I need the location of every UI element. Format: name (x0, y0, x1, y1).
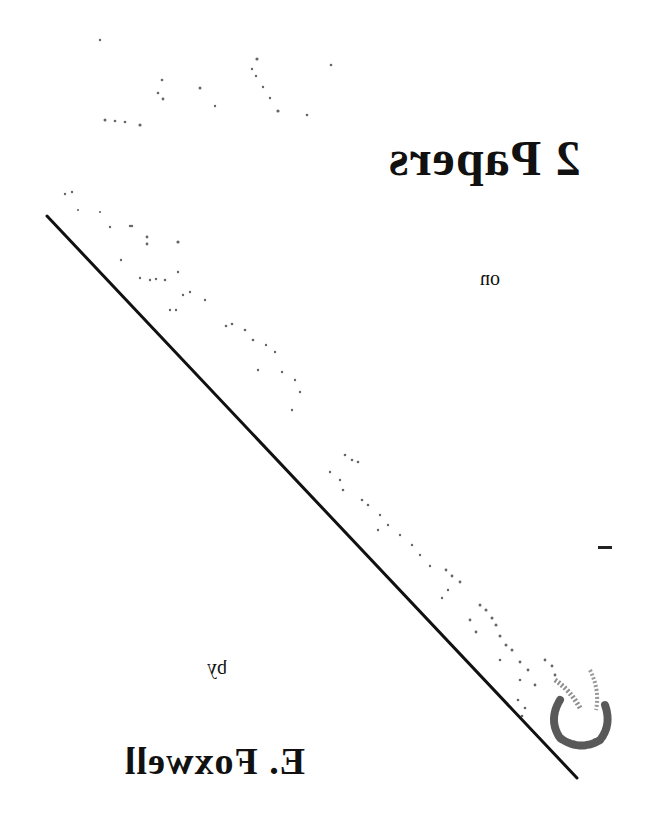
title-text: 2 Papers (388, 128, 581, 188)
connector-word: on (480, 266, 500, 290)
diagonal-rule-and-stamp (0, 0, 651, 822)
author-name-text: E. Foxwell (124, 738, 305, 784)
byline-word: by (207, 655, 227, 679)
title: 2 Papers (388, 128, 581, 188)
diagonal-rule (47, 216, 577, 778)
stray-mark (598, 546, 612, 549)
connector-word-text: on (480, 266, 500, 290)
document-page: 2 Papers on by E. Foxwell (0, 0, 651, 822)
author-name: E. Foxwell (124, 738, 305, 784)
stamp-swirl (554, 670, 608, 746)
byline-word-text: by (207, 655, 227, 679)
